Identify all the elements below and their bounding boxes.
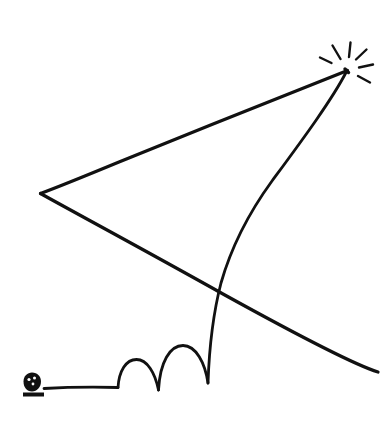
illustration-canvas: Kite with bouncing tail and spark hand-d… — [0, 0, 384, 433]
anchor-rock-speck-right — [33, 377, 36, 380]
ground-line — [44, 387, 118, 388]
anchor-rock-speck-low — [32, 383, 35, 386]
spark-ray-up — [349, 43, 351, 58]
anchor-base — [23, 393, 44, 397]
drawing-background — [0, 0, 384, 433]
kite-drawing — [0, 0, 384, 433]
anchor-rock-speck-left — [27, 378, 30, 381]
